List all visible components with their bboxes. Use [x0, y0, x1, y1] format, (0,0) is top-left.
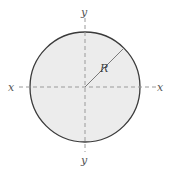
x-axis-label-left: x	[8, 81, 15, 94]
x-axis-label-right: x	[157, 81, 164, 94]
y-axis-label-bottom: y	[80, 154, 88, 167]
diagram-canvas: x x y y R	[0, 0, 170, 176]
radius-label: R	[99, 62, 108, 75]
y-axis-label-top: y	[80, 6, 88, 19]
